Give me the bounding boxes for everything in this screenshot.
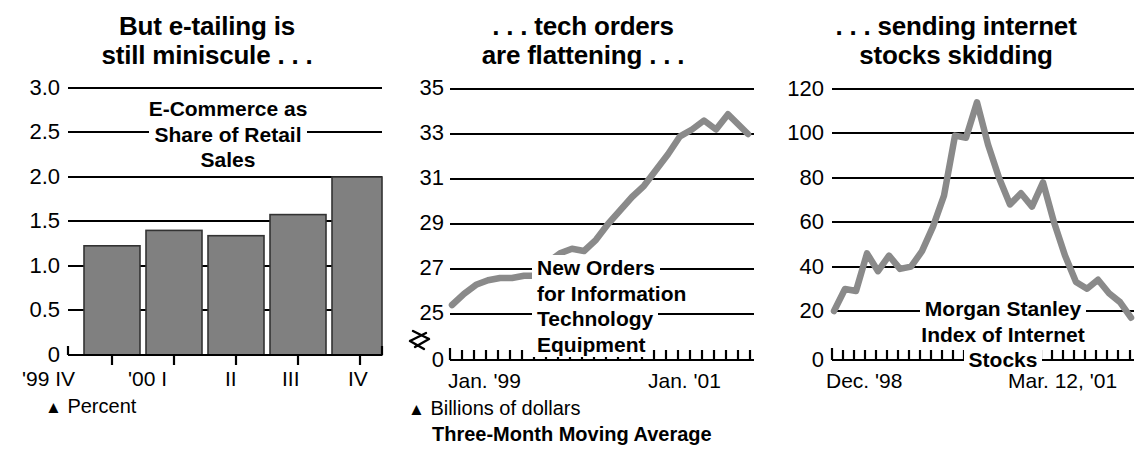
chart-panel-internet-stocks: . . . sending internet stocks skidding 1… (760, 0, 1146, 455)
panel-title-line2: are flattening . . . (406, 41, 760, 70)
panel-title: . . . sending internet stocks skidding (760, 12, 1146, 70)
series-label-line4: Equipment (532, 332, 651, 358)
y-tick-label: 25 (396, 302, 444, 324)
y-tick-label: 33 (396, 122, 444, 144)
series-label-line3: Sales (196, 147, 261, 173)
series-label: New Orders for Information Technology Eq… (532, 255, 762, 357)
footnote-percent: ▲ Percent (45, 394, 136, 418)
x-tick-label: III (282, 368, 300, 389)
x-start-label: Dec. '98 (826, 370, 902, 391)
chart-panel-tech-orders: . . . tech orders are flattening . . . 3… (396, 0, 760, 455)
y-tick-label: 29 (396, 212, 444, 234)
x-tick-label: '00 I (128, 368, 167, 389)
footnote-moving-average: Three-Month Moving Average (432, 422, 712, 446)
series-label-line1: E-Commerce as (144, 96, 313, 122)
y-tick-label: 0 (0, 344, 60, 366)
panel-title-line2: stocks skidding (766, 41, 1146, 70)
panel-title-line1: But e-tailing is (18, 12, 396, 41)
y-tick-label: 20 (760, 300, 824, 322)
series-label: Morgan Stanley Index of Internet Stocks (878, 296, 1128, 373)
series-label-line2: Index of Internet (916, 322, 1089, 348)
x-tick-label: '99 IV (22, 368, 75, 389)
y-tick-label: 35 (396, 77, 444, 99)
axis-break-icon (406, 325, 440, 355)
y-tick-label: 3.0 (0, 77, 60, 99)
panel-title-line1: . . . tech orders (406, 12, 760, 41)
figure-board: But e-tailing is still miniscule . . . 3… (0, 0, 1146, 455)
y-tick-label: 100 (760, 122, 824, 144)
footnote-units: ▲ Billions of dollars (408, 396, 580, 420)
y-tick-label: 0.5 (0, 299, 60, 321)
footnote-text: Billions of dollars (430, 397, 580, 419)
panel-title-line2: still miniscule . . . (18, 41, 396, 70)
triangle-marker-icon: ▲ (408, 400, 425, 419)
chart-panel-e-commerce-share: But e-tailing is still miniscule . . . 3… (0, 0, 396, 455)
y-tick-label: 40 (760, 256, 824, 278)
y-tick-label: 2.0 (0, 166, 60, 188)
panel-title: . . . tech orders are flattening . . . (396, 12, 760, 70)
series-label: E-Commerce as Share of Retail Sales (78, 96, 378, 173)
series-label-line1: Morgan Stanley (920, 296, 1086, 322)
panel-title-line1: . . . sending internet (766, 12, 1146, 41)
y-tick-label: 0 (760, 349, 824, 371)
series-label-line2: Share of Retail (149, 122, 306, 148)
x-end-label: Jan. '01 (648, 370, 721, 391)
x-tick-label: II (225, 368, 237, 389)
y-tick-label: 1.5 (0, 210, 60, 232)
y-tick-label: 1.0 (0, 255, 60, 277)
series-label-line1: New Orders (532, 255, 660, 281)
series-label-line3: Technology (532, 306, 658, 332)
y-tick-label: 120 (760, 78, 824, 100)
y-tick-label: 2.5 (0, 121, 60, 143)
series-label-line2: for Information (532, 281, 691, 307)
y-tick-label: 60 (760, 211, 824, 233)
triangle-marker-icon: ▲ (45, 398, 62, 417)
x-tick-label: IV (348, 368, 368, 389)
footnote-text: Percent (67, 395, 136, 417)
x-end-label: Mar. 12, '01 (1008, 370, 1117, 391)
y-tick-label: 80 (760, 167, 824, 189)
panel-title: But e-tailing is still miniscule . . . (0, 12, 396, 70)
y-tick-label: 27 (396, 257, 444, 279)
y-tick-label: 31 (396, 167, 444, 189)
x-start-label: Jan. '99 (448, 370, 521, 391)
